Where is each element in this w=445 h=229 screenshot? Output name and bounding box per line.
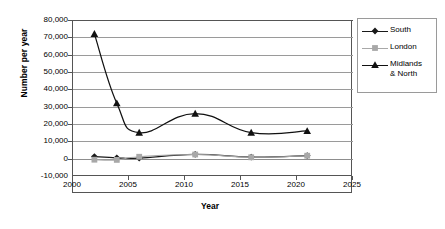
y-tick-mark <box>68 159 72 160</box>
data-point-marker <box>248 154 254 160</box>
data-layer <box>72 20 352 176</box>
x-tick-label: 2010 <box>164 180 204 189</box>
y-axis-tick-labels: 80,00070,00060,00050,00040,00030,00020,0… <box>18 0 68 229</box>
legend-item[interactable]: South <box>362 25 411 36</box>
series-midlands-north <box>91 30 311 136</box>
y-tick-mark <box>68 37 72 38</box>
y-tick-label: 50,000 <box>18 68 68 76</box>
data-point-marker <box>114 157 120 163</box>
y-tick-label: 10,000 <box>18 137 68 145</box>
legend-marker-triangle-icon <box>362 60 388 70</box>
data-point-marker <box>91 30 99 37</box>
y-tick-label: 20,000 <box>18 120 68 128</box>
y-tick-label: 80,000 <box>18 16 68 24</box>
x-axis-title: Year <box>0 201 420 211</box>
series-line <box>94 34 307 134</box>
legend-marker-diamond-icon <box>362 26 388 36</box>
data-point-marker <box>192 152 198 158</box>
y-tick-label: 40,000 <box>18 85 68 93</box>
y-tick-mark <box>68 89 72 90</box>
data-point-marker <box>92 157 98 163</box>
series-london <box>92 152 311 163</box>
data-point-marker <box>136 154 142 160</box>
legend-label: South <box>390 25 411 35</box>
data-point-marker <box>113 99 121 106</box>
x-tick-label: 2000 <box>52 180 92 189</box>
y-tick-label: 70,000 <box>18 33 68 41</box>
chart-container: Number per year 80,00070,00060,00050,000… <box>0 0 445 229</box>
y-tick-label: -10,000 <box>18 172 68 180</box>
y-tick-label: 60,000 <box>18 51 68 59</box>
x-tick-label: 2020 <box>276 180 316 189</box>
legend-label: Midlands & North <box>390 59 422 78</box>
legend-label: London <box>390 42 417 52</box>
x-tick-label: 2015 <box>220 180 260 189</box>
y-tick-mark <box>68 20 72 21</box>
data-point-marker <box>304 153 310 159</box>
y-tick-mark <box>68 72 72 73</box>
chart-legend: SouthLondonMidlands & North <box>357 18 437 93</box>
x-tick-label: 2025 <box>332 180 372 189</box>
x-tick-label: 2005 <box>108 180 148 189</box>
legend-marker-square-icon <box>362 43 388 53</box>
series-south <box>91 151 311 162</box>
y-tick-mark <box>68 141 72 142</box>
y-tick-mark <box>68 124 72 125</box>
legend-item[interactable]: Midlands & North <box>362 59 422 78</box>
legend-item[interactable]: London <box>362 42 417 53</box>
data-point-marker <box>371 61 379 68</box>
data-point-marker <box>372 45 378 51</box>
y-tick-mark <box>68 107 72 108</box>
y-tick-label: 30,000 <box>18 103 68 111</box>
data-point-marker <box>372 28 379 35</box>
y-tick-mark <box>68 55 72 56</box>
series-line <box>94 155 307 161</box>
y-tick-label: 0 <box>18 155 68 163</box>
